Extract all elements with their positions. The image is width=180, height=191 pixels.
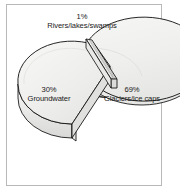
slice-label-groundwater: 30% Groundwater <box>13 86 85 104</box>
slice-name-glaciers: Glaciers/ice caps <box>92 95 172 104</box>
slice-name-groundwater: Groundwater <box>13 95 85 104</box>
slice-label-glaciers: 69% Glaciers/ice caps <box>92 86 172 104</box>
pie-chart-figure: 1% Rivers/lakes/swamps 30% Groundwater 6… <box>0 0 180 191</box>
slice-name-rivers: Rivers/lakes/swamps <box>14 22 150 31</box>
slice-label-rivers: 1% Rivers/lakes/swamps <box>14 13 150 31</box>
